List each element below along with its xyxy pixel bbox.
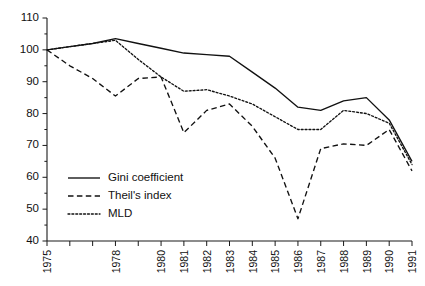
y-axis-label-group: 405060708090100110 bbox=[20, 11, 39, 246]
x-axis-tick-group bbox=[47, 241, 412, 246]
series-line-solid bbox=[47, 39, 412, 162]
y-axis-tick-label: 60 bbox=[26, 170, 39, 182]
y-axis-tick-label: 80 bbox=[26, 107, 39, 119]
y-axis-tick-label: 70 bbox=[26, 138, 39, 150]
y-axis-tick-label: 40 bbox=[26, 234, 39, 246]
series-line-dashed bbox=[47, 50, 412, 219]
y-axis-tick-label: 110 bbox=[21, 11, 39, 23]
x-axis-tick-label: 1988 bbox=[338, 250, 350, 274]
x-axis-tick-label: 1986 bbox=[292, 250, 304, 274]
x-axis-label-group: 1975197819801981198219831984198519861987… bbox=[41, 250, 418, 274]
x-axis-tick-label: 1990 bbox=[383, 250, 395, 274]
x-axis-tick-label: 1983 bbox=[224, 250, 236, 274]
legend-label: Theil's index bbox=[108, 189, 172, 201]
y-axis-tick-label: 100 bbox=[20, 43, 39, 55]
x-axis-tick-label: 1987 bbox=[315, 250, 327, 274]
y-axis-tick-label: 90 bbox=[26, 75, 39, 87]
x-axis-tick-label: 1982 bbox=[201, 250, 213, 274]
legend-label: Gini coefficient bbox=[108, 171, 184, 183]
legend-label: MLD bbox=[108, 207, 132, 219]
line-chart: 405060708090100110 197519781980198119821… bbox=[0, 0, 425, 286]
x-axis-tick-label: 1980 bbox=[155, 250, 167, 274]
x-axis-tick-label: 1981 bbox=[178, 250, 190, 274]
y-axis-tick-group bbox=[43, 18, 48, 241]
chart-legend: Gini coefficientTheil's indexMLD bbox=[68, 171, 184, 219]
y-axis-tick-label: 50 bbox=[26, 202, 39, 214]
x-axis-tick-label: 1984 bbox=[247, 250, 259, 274]
x-axis-tick-label: 1978 bbox=[110, 250, 122, 274]
chart-container: 405060708090100110 197519781980198119821… bbox=[0, 0, 425, 286]
x-axis-tick-label: 1975 bbox=[41, 250, 53, 274]
data-series-group bbox=[47, 39, 412, 219]
x-axis-tick-label: 1991 bbox=[406, 250, 418, 274]
series-line-dotted bbox=[47, 40, 412, 164]
x-axis-tick-label: 1985 bbox=[269, 250, 281, 274]
x-axis-tick-label: 1989 bbox=[361, 250, 373, 274]
